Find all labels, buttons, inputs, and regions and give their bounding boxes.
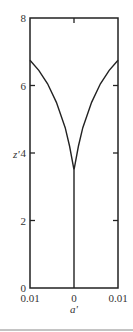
- y-tick-label: 4: [21, 147, 27, 159]
- series-profile: [30, 60, 118, 170]
- y-tick-label: 6: [21, 80, 27, 92]
- x-axis-label: a': [70, 303, 79, 315]
- y-tick-label: 2: [21, 215, 27, 227]
- y-axis-label: z': [12, 148, 20, 160]
- data-series: [30, 60, 118, 288]
- y-ticks: 02468: [21, 12, 119, 294]
- x-tick-label: 0.01: [108, 292, 127, 304]
- x-tick-label: 0.01: [20, 292, 39, 304]
- chart: 02468 0.0100.01 z' a': [0, 0, 133, 332]
- y-tick-label: 8: [21, 12, 27, 24]
